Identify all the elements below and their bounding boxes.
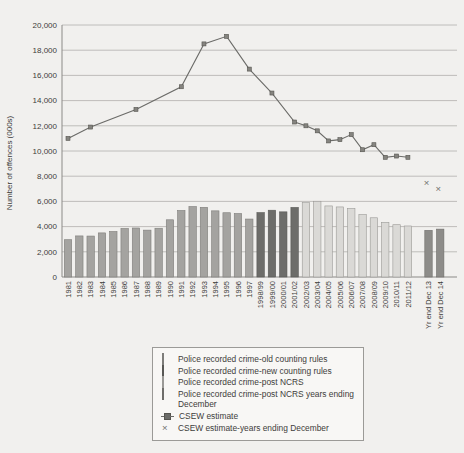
line-point-marker (179, 85, 183, 89)
legend-label: Police recorded crime-new counting rules (178, 366, 356, 377)
x-tick-label: 1985 (109, 281, 118, 298)
csew-line-marker-icon (162, 411, 174, 422)
bar (200, 207, 207, 277)
bar (132, 228, 139, 277)
legend-swatch-old-counting-rules (162, 354, 173, 365)
bar (268, 210, 275, 277)
y-tick-label: 12,000 (33, 122, 58, 131)
legend-label: Police recorded crime-old counting rules (178, 354, 356, 365)
bar (302, 203, 309, 277)
crime-trends-chart: 02,0004,0006,0008,00010,00012,00014,0001… (0, 0, 464, 346)
legend-item-new-counting-rules: Police recorded crime-new counting rules (162, 366, 356, 377)
bar (425, 230, 432, 277)
line-point-marker (395, 154, 399, 158)
x-point-marker: × (424, 177, 430, 188)
bar (155, 228, 162, 277)
bar (178, 210, 185, 277)
bar (144, 230, 151, 277)
bar (336, 207, 343, 277)
line-point-marker (134, 107, 138, 111)
legend-swatch-post-ncrs-december (162, 389, 173, 400)
line-point-marker (304, 124, 308, 128)
y-tick-label: 20,000 (33, 21, 58, 30)
x-tick-label: 1991 (177, 281, 186, 298)
y-tick-label: 18,000 (33, 46, 58, 55)
x-tick-label: 2006/07 (347, 281, 356, 308)
line-point-marker (225, 34, 229, 38)
recorded-crime-bars (64, 201, 444, 277)
line-point-marker (327, 139, 331, 143)
line-point-marker (270, 91, 274, 95)
y-tick-label: 8,000 (37, 172, 58, 181)
x-tick-label: 2000/01 (279, 281, 288, 308)
line-point-marker (406, 155, 410, 159)
y-tick-label: 0 (53, 273, 58, 282)
bar (121, 228, 128, 277)
bar (325, 206, 332, 277)
x-tick-label: 1994 (211, 281, 220, 298)
y-tick-label: 16,000 (33, 71, 58, 80)
bar (437, 229, 444, 277)
y-tick-label: 6,000 (37, 197, 58, 206)
bar (87, 236, 94, 277)
bar (382, 222, 389, 277)
bar (64, 240, 71, 277)
legend-item-post-ncrs: Police recorded crime-post NCRS (162, 377, 356, 388)
line-point-marker (383, 155, 387, 159)
x-tick-label: 1989 (154, 281, 163, 298)
x-tick-label: 1990 (166, 281, 175, 298)
legend-item-post-ncrs-december: Police recorded crime-post NCRS years en… (162, 389, 356, 410)
legend-swatch-new-counting-rules (162, 366, 173, 377)
x-tick-label: 2011/12 (404, 281, 413, 308)
line-point-marker (338, 138, 342, 142)
csew-estimate-line (66, 34, 410, 159)
bar (98, 233, 105, 277)
x-tick-label: 2008/09 (370, 281, 379, 308)
legend-label: CSEW estimate (179, 411, 356, 422)
legend-item-old-counting-rules: Police recorded crime-old counting rules (162, 354, 356, 365)
bar (404, 226, 411, 277)
x-tick-label: 2009/10 (381, 281, 390, 308)
x-tick-label: 2003/04 (313, 281, 322, 308)
y-tick-label: 10,000 (33, 147, 58, 156)
bar (234, 213, 241, 277)
bar (359, 215, 366, 277)
x-tick-label: 1995 (222, 281, 231, 298)
y-axis-title: Number of offences (000s) (5, 115, 14, 210)
bar (166, 220, 173, 277)
bar (189, 207, 196, 277)
x-point-marker: × (435, 183, 441, 194)
x-tick-label: 2004/05 (324, 281, 333, 308)
x-tick-label: 2010/11 (392, 281, 401, 308)
x-axis-tick-labels: 1981198219831984198519861987198819891990… (64, 281, 445, 329)
x-tick-label: 2002/03 (302, 281, 311, 308)
legend-item-csew-estimate-december: × CSEW estimate-years ending December (162, 423, 356, 434)
line-point-marker (247, 67, 251, 71)
bar (393, 225, 400, 277)
line-point-marker (349, 133, 353, 137)
line-point-marker (66, 136, 70, 140)
legend-item-csew-estimate: CSEW estimate (162, 411, 356, 422)
x-tick-label: Yr end Dec 14 (436, 281, 445, 329)
x-tick-label: 1998/99 (256, 281, 265, 308)
x-tick-label: 2007/08 (358, 281, 367, 308)
line-point-marker (89, 125, 93, 129)
y-tick-label: 4,000 (37, 222, 58, 231)
bar (110, 232, 117, 277)
x-tick-label: Yr end Dec 13 (424, 281, 433, 329)
line-point-marker (202, 42, 206, 46)
bar (212, 211, 219, 277)
x-tick-label: 2001/02 (290, 281, 299, 308)
x-tick-label: 1983 (86, 281, 95, 298)
bar (314, 201, 321, 277)
y-axis-tick-labels: 02,0004,0006,0008,00010,00012,00014,0001… (33, 21, 58, 282)
legend-label: CSEW estimate-years ending December (178, 423, 356, 434)
bar (370, 218, 377, 277)
x-tick-label: 1987 (132, 281, 141, 298)
bar (348, 209, 355, 277)
x-marker-icon: × (162, 423, 173, 434)
x-tick-label: 1997 (245, 281, 254, 298)
bar (246, 219, 253, 277)
x-tick-label: 1984 (98, 281, 107, 298)
x-tick-label: 2005/06 (336, 281, 345, 308)
